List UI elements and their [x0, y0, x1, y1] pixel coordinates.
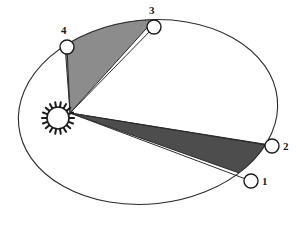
sun-ray [55, 102, 56, 106]
sun-ray [64, 104, 66, 108]
sun-ray [69, 122, 73, 124]
sun-ray [50, 128, 52, 132]
sector-dark-shape [70, 113, 266, 173]
point-label-4: 4 [61, 25, 67, 36]
sun-ray [43, 113, 47, 115]
orbital-position-marker-4 [60, 40, 74, 54]
point-label-2: 2 [283, 141, 289, 152]
orbital-position-marker-2 [265, 139, 279, 153]
sun-ray [64, 128, 66, 132]
sun-ray [50, 104, 52, 108]
orbital-position-marker-3 [147, 20, 161, 34]
sector-light-shape [65, 20, 154, 113]
sun-ray [60, 129, 61, 133]
orbital-position-marker-1 [244, 174, 258, 188]
sun-core [47, 107, 69, 129]
point-label-1: 1 [262, 176, 268, 187]
sun-ray [55, 129, 56, 133]
orbit-diagram-canvas [0, 0, 300, 229]
sun-ray [46, 125, 49, 128]
point-label-3: 3 [149, 5, 155, 16]
swept-area-light-sector [65, 20, 154, 113]
sun-ray [60, 102, 61, 106]
sun-ray [67, 125, 70, 128]
sun-ray [43, 122, 47, 124]
kepler-orbit-diagram: 1 2 3 4 [0, 0, 300, 229]
swept-area-dark-sector [70, 113, 266, 173]
sun-ray [46, 108, 49, 111]
